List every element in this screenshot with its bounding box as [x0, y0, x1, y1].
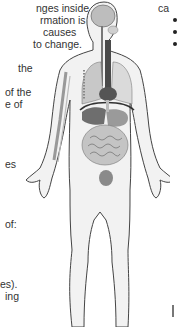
text-line: es). — [0, 278, 18, 290]
bladder — [99, 170, 113, 186]
bullet-point — [173, 42, 177, 46]
right-heading-fragment: ca — [158, 2, 169, 14]
text-line: ing — [5, 290, 19, 302]
liver — [82, 107, 106, 125]
textbook-page: nges inside rmation is causes to change.… — [0, 0, 182, 327]
page-edge-mark — [172, 305, 174, 317]
esophagus — [106, 100, 109, 112]
bullet-point — [173, 30, 177, 34]
text-line: es — [5, 158, 16, 170]
brain — [91, 5, 115, 27]
bullet-point — [173, 18, 177, 22]
text-line: of: — [5, 218, 17, 230]
nasal-cavity — [108, 26, 118, 34]
human-anatomy-figure — [20, 0, 170, 327]
body-outline — [26, 2, 170, 327]
heart — [99, 87, 117, 101]
